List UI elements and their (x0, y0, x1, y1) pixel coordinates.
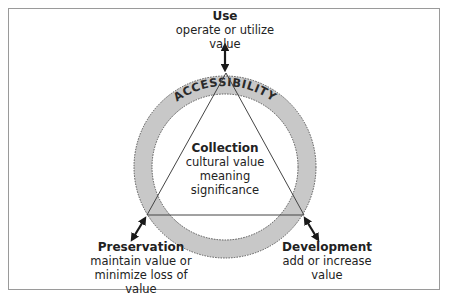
preservation-node: Preservation maintain value or minimize … (82, 240, 200, 296)
use-desc-line: operate or utilize (160, 23, 290, 37)
development-desc-line: add or increase (272, 254, 382, 268)
collection-desc-line: meaning (165, 169, 285, 183)
development-arrow-icon (306, 220, 317, 238)
use-desc-line: value (160, 37, 290, 51)
preservation-desc-line: minimize loss of (82, 268, 200, 282)
use-node: Use operate or utilize value (160, 9, 290, 51)
development-node: Development add or increase value (272, 240, 382, 282)
preservation-desc-line: value (82, 282, 200, 296)
preservation-arrow-icon (133, 220, 144, 238)
development-desc-line: value (272, 268, 382, 282)
use-title: Use (160, 9, 290, 23)
preservation-title: Preservation (82, 240, 200, 254)
collection-desc-line: significance (165, 183, 285, 197)
preservation-desc-line: maintain value or (82, 254, 200, 268)
collection-desc-line: cultural value (165, 155, 285, 169)
collection-title: Collection (165, 141, 285, 155)
development-title: Development (272, 240, 382, 254)
collection-node: Collection cultural value meaning signif… (165, 141, 285, 197)
